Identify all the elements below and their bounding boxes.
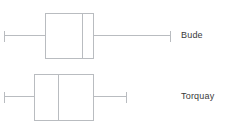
bude-series-label: Bude xyxy=(181,30,203,40)
torquay-box xyxy=(35,75,94,121)
boxplot-series-bude: Bude xyxy=(5,14,203,59)
bude-box xyxy=(46,14,94,59)
boxplot-chart: Bude Torquay xyxy=(0,0,226,133)
boxplot-canvas: Bude Torquay xyxy=(0,0,226,133)
boxplot-series-torquay: Torquay xyxy=(5,75,215,121)
torquay-series-label: Torquay xyxy=(181,91,215,101)
